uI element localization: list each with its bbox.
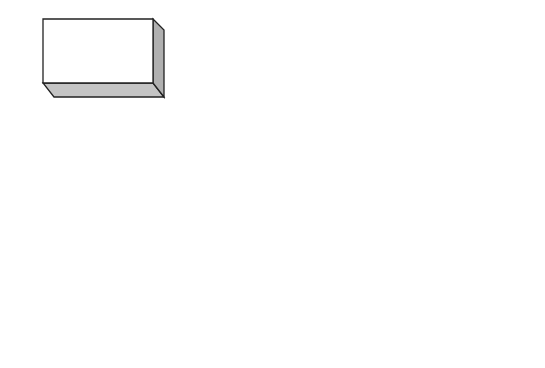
- box-side-face: [153, 19, 164, 97]
- process-box-designing-the-database: [43, 19, 153, 83]
- diagram-canvas: [0, 0, 545, 368]
- shapes-layer: [0, 0, 545, 368]
- box-bottom-face: [43, 83, 164, 97]
